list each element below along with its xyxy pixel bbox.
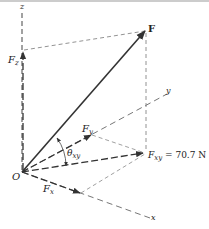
y-axis-label: y	[166, 87, 171, 95]
fz-label: Fz	[8, 55, 19, 67]
fxy-label: Fxy = 70.7 N	[148, 151, 206, 162]
fz-sub: z	[15, 59, 19, 67]
fx-main: F	[43, 183, 50, 194]
fz-to-f-guide	[24, 31, 145, 50]
force-component-diagram: z y x O F Fz Fy Fx Fxy = 70.7 N θxy	[0, 0, 209, 229]
fx-to-fxy-guide	[81, 154, 145, 193]
fy-sub: y	[89, 128, 93, 136]
force-label: F	[148, 24, 155, 34]
f-vector	[22, 31, 145, 172]
theta-label: θxy	[67, 149, 80, 160]
fx-sub: x	[50, 188, 54, 196]
z-axis-label: z	[20, 3, 24, 11]
origin-label: O	[12, 172, 20, 182]
fz-main: F	[8, 54, 15, 65]
fxy-sub: xy	[154, 154, 162, 162]
theta-sub: xy	[72, 152, 80, 160]
diagram-lines	[0, 0, 209, 229]
fx-label: Fx	[43, 184, 54, 196]
fy-label: Fy	[82, 124, 93, 136]
fxy-value: = 70.7 N	[162, 150, 206, 160]
fy-main: F	[82, 123, 89, 134]
fy-to-fxy-guide	[92, 135, 145, 153]
x-axis-label: x	[151, 214, 156, 222]
